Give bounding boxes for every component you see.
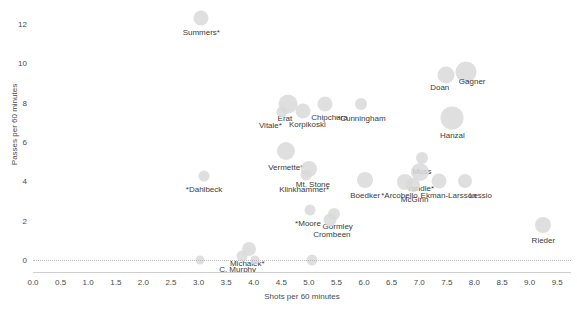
data-point-label: *Dahlbeck [186,185,222,194]
x-tick-label: 2.0 [138,278,149,287]
x-axis-line [33,272,571,273]
data-point-bubble[interactable] [305,204,316,215]
data-point-label: Doan [430,83,449,92]
x-tick-label: 3.5 [221,278,232,287]
x-tick-label: 0.5 [55,278,66,287]
data-point-label: Vitale* [259,121,282,130]
y-tick-label: 2 [23,216,27,225]
data-point-bubble[interactable] [277,142,295,160]
data-point-label: Lessio [469,191,492,200]
x-tick-label: 9.0 [524,278,535,287]
data-point-bubble[interactable] [301,170,312,181]
data-point-label: Boedker [350,191,380,200]
data-point-label: *Cunningham [337,114,385,123]
data-point-bubble[interactable] [323,213,336,226]
x-tick-label: 0.0 [27,278,38,287]
x-tick-label: 5.0 [303,278,314,287]
x-tick-label: 7.0 [414,278,425,287]
data-point-label: Rieder [532,236,556,245]
data-point-bubble[interactable] [199,171,210,182]
y-axis-title: Passes per 60 minutes [10,55,19,195]
y-tick-label: 6 [23,137,27,146]
y-tick-label: 10 [18,59,27,68]
data-point-bubble[interactable] [406,178,420,192]
x-tick-label: 4.5 [276,278,287,287]
x-tick-label: 7.5 [441,278,452,287]
plot-area: Summers*DoanGagnerHanzalEratKorpikoskiCh… [33,6,571,272]
x-tick-label: 5.5 [331,278,342,287]
y-tick-label: 4 [23,177,27,186]
x-tick-label: 6.5 [386,278,397,287]
data-point-label: Korpikoski [289,120,326,129]
data-point-label: Vermette* [268,163,303,172]
data-point-label: Summers* [183,28,220,37]
y-tick-label: 0 [23,256,27,265]
x-tick-label: 3.0 [193,278,204,287]
data-point-label: Gagner [459,77,486,86]
x-tick-label: 4.0 [248,278,259,287]
data-point-bubble[interactable] [318,96,333,111]
data-point-label: Crombeen [313,230,350,239]
x-tick-label: 1.0 [83,278,94,287]
data-point-bubble[interactable] [194,10,209,25]
x-tick-label: 9.5 [552,278,563,287]
data-point-label: Hanzal [440,131,465,140]
x-tick-label: 8.0 [469,278,480,287]
data-point-label: Klinkhammer* [279,185,329,194]
data-point-bubble[interactable] [535,217,551,233]
data-point-bubble[interactable] [458,174,472,188]
y-tick-label: 8 [23,98,27,107]
zero-reference-line [33,260,571,261]
data-point-bubble[interactable] [357,172,373,188]
data-point-label: *Moore [295,219,321,228]
x-axis-tick-labels: 0.00.51.01.52.02.53.03.54.04.55.05.56.06… [33,278,571,290]
data-point-bubble[interactable] [277,107,288,118]
x-tick-label: 6.0 [359,278,370,287]
x-tick-label: 2.5 [165,278,176,287]
data-point-bubble[interactable] [437,66,454,83]
data-point-bubble[interactable] [296,104,311,119]
x-tick-label: 1.5 [110,278,121,287]
data-point-bubble[interactable] [441,106,464,129]
data-point-bubble[interactable] [355,98,367,110]
x-axis-title: Shots per 60 minutes [33,292,571,301]
data-point-bubble[interactable] [431,173,446,188]
y-tick-label: 12 [18,19,27,28]
bubble-chart: 024681012 Passes per 60 minutes Summers*… [0,0,577,319]
x-tick-label: 8.5 [496,278,507,287]
